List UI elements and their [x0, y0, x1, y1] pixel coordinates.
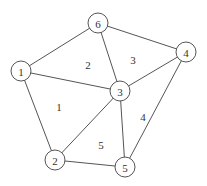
node-label: 2: [52, 155, 58, 167]
node-label: 4: [183, 47, 189, 59]
node-label: 1: [18, 66, 24, 78]
node-4: 4: [176, 42, 196, 62]
node-label: 5: [122, 162, 128, 174]
edge-1-3: [21, 71, 120, 91]
edge-6-3: [98, 23, 120, 91]
region-label-5: 5: [98, 139, 104, 151]
node-5: 5: [115, 157, 135, 177]
edge-6-4: [98, 23, 186, 52]
edge-3-5: [120, 91, 125, 167]
region-label-1: 1: [56, 101, 62, 113]
node-label: 6: [95, 18, 101, 30]
edge-1-2: [21, 71, 55, 160]
diagram-svg: 12345 123456: [0, 0, 207, 186]
edge-3-2: [55, 91, 120, 160]
node-label: 3: [117, 86, 123, 98]
node-6: 6: [88, 13, 108, 33]
edge-4-5: [125, 52, 186, 167]
region-label-2: 2: [85, 59, 91, 71]
node-group: 123456: [11, 13, 196, 177]
region-label-3: 3: [130, 54, 136, 66]
edge-2-5: [55, 160, 125, 167]
node-2: 2: [45, 150, 65, 170]
node-3: 3: [110, 81, 130, 101]
region-label-group: 12345: [56, 54, 146, 151]
region-label-4: 4: [140, 111, 146, 123]
node-1: 1: [11, 61, 31, 81]
mesh-diagram: 12345 123456: [0, 0, 207, 186]
